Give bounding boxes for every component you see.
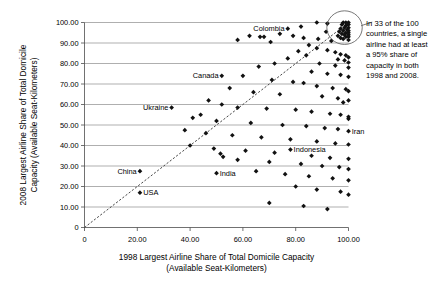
point-label-indonesia: Indonesia xyxy=(294,145,327,154)
y-tick-label: 100.00 xyxy=(56,18,79,27)
annotation-line-2: countries, a single xyxy=(366,29,427,38)
point-label-ukraine: Ukraine xyxy=(143,103,168,112)
annotation-line-4: a 95% share of xyxy=(366,50,418,59)
point-label-india: India xyxy=(220,169,237,178)
annotation-line-6: 1998 and 2008. xyxy=(366,71,419,80)
x-axis-title-line1: 1998 Largest Airline Share of Total Domi… xyxy=(119,252,315,262)
scatter-chart: ColombiaCanadaUkraineChinaUSAIndiaIndone… xyxy=(0,0,440,286)
chart-canvas: ColombiaCanadaUkraineChinaUSAIndiaIndone… xyxy=(0,0,440,286)
y-tick-label: 10.00 xyxy=(60,203,79,212)
point-label-iran: Iran xyxy=(352,127,365,136)
point-label-usa: USA xyxy=(143,188,158,197)
x-tick-label: 80.00 xyxy=(286,235,305,244)
x-tick-label: 100.00 xyxy=(337,235,360,244)
point-label-canada: Canada xyxy=(193,71,220,80)
y-axis-title-line1: 2008 Largest Airline Share of Total Domi… xyxy=(18,44,28,205)
y-tick-label: 20.00 xyxy=(60,182,79,191)
x-axis-title-line2: (Available Seat-Kilometers) xyxy=(166,263,267,273)
annotation-line-1: In 33 of the 100 xyxy=(366,19,419,28)
y-tick-label: 30.00 xyxy=(60,162,79,171)
x-tick-label: 20.00 xyxy=(128,235,147,244)
y-tick-label: 70.00 xyxy=(60,80,79,89)
y-tick-label: 80.00 xyxy=(60,59,79,68)
point-label-china: China xyxy=(117,167,137,176)
annotation-line-5: capacity in both xyxy=(366,61,419,70)
x-tick-label: 40.00 xyxy=(181,235,200,244)
annotation-line-3: airline had at least xyxy=(366,40,429,49)
point-label-colombia: Colombia xyxy=(253,24,285,33)
y-tick-label: 40.00 xyxy=(60,141,79,150)
y-tick-label: 0 xyxy=(74,223,78,232)
y-axis-title-line2: Capacity (Available Seat-Kilometers) xyxy=(29,57,39,192)
y-tick-label: 50.00 xyxy=(60,121,79,130)
y-tick-label: 90.00 xyxy=(60,39,79,48)
x-tick-label: 60.00 xyxy=(234,235,253,244)
x-tick-label: 0 xyxy=(82,235,86,244)
y-tick-label: 60.00 xyxy=(60,100,79,109)
